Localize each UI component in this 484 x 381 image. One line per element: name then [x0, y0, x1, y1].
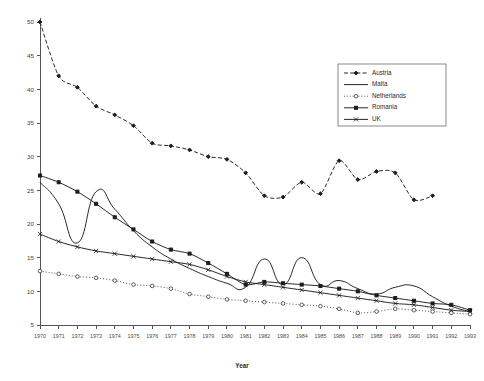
x-tick-label: 1979	[202, 333, 214, 339]
x-tick-label: 1976	[146, 333, 158, 339]
data-point-marker	[375, 170, 379, 174]
y-tick-label: 5	[31, 321, 35, 328]
x-tick-label: 1975	[127, 333, 139, 339]
x-tick-label: 1992	[445, 333, 457, 339]
x-tick-label: 1985	[314, 333, 326, 339]
x-tick-label: 1970	[34, 333, 46, 339]
data-point-marker	[38, 269, 42, 273]
data-point-marker	[356, 311, 360, 315]
x-tick-label: 1993	[464, 333, 476, 339]
data-point-marker	[281, 195, 285, 199]
data-point-marker	[338, 287, 341, 290]
data-point-marker	[300, 303, 304, 307]
legend: AustriaMaltaNetherlandsRomaniaUK	[338, 64, 446, 126]
data-point-marker	[39, 174, 42, 177]
data-point-marker	[113, 113, 117, 117]
y-tick-label: 30	[27, 153, 34, 160]
data-point-marker	[412, 299, 415, 302]
data-point-marker	[319, 192, 323, 196]
data-point-marker	[356, 178, 360, 182]
x-tick-label: 1989	[389, 333, 401, 339]
data-point-marker	[76, 190, 79, 193]
data-point-marker	[394, 297, 397, 300]
x-tick-label: 1981	[240, 333, 252, 339]
x-tick-label: 1972	[71, 333, 83, 339]
data-point-marker	[76, 275, 80, 279]
x-axis: 1970197119721973197419751976197719781979…	[34, 325, 476, 339]
data-point-marker	[281, 302, 285, 306]
data-point-marker	[132, 228, 135, 231]
data-point-marker	[263, 300, 267, 304]
data-point-marker	[393, 307, 397, 311]
data-point-marker	[150, 141, 154, 145]
data-point-marker	[57, 181, 60, 184]
y-tick-label: 15	[27, 254, 34, 261]
x-tick-label: 1988	[371, 333, 383, 339]
data-point-marker	[450, 303, 453, 306]
data-point-marker	[225, 298, 229, 302]
y-tick-label: 35	[27, 119, 34, 126]
y-tick-label: 25	[27, 187, 34, 194]
data-point-marker	[206, 155, 210, 159]
chart-canvas: 5101520253035404550 19701971197219731974…	[0, 0, 484, 381]
x-tick-label: 1986	[333, 333, 345, 339]
data-point-marker	[113, 279, 117, 283]
x-tick-label: 1973	[90, 333, 102, 339]
data-point-marker	[375, 294, 378, 297]
data-point-marker	[355, 106, 358, 109]
data-point-marker	[263, 280, 266, 283]
data-point-marker	[300, 283, 303, 286]
data-point-marker	[319, 304, 323, 308]
x-tick-label: 1974	[109, 333, 121, 339]
data-point-marker	[207, 262, 210, 265]
data-point-marker	[431, 302, 434, 305]
data-point-marker	[282, 282, 285, 285]
x-axis-title: Year	[235, 362, 249, 369]
data-point-marker	[150, 284, 154, 288]
data-point-marker	[95, 202, 98, 205]
y-tick-label: 45	[27, 52, 34, 59]
x-tick-label: 1987	[352, 333, 364, 339]
data-point-marker	[412, 308, 416, 312]
series-line	[40, 182, 470, 311]
x-tick-label: 1980	[221, 333, 233, 339]
x-tick-label: 1984	[296, 333, 308, 339]
data-point-marker	[244, 283, 247, 286]
data-point-marker	[431, 194, 435, 198]
series-romania	[39, 174, 472, 312]
data-point-marker	[94, 276, 98, 280]
y-tick-label: 40	[27, 86, 34, 93]
data-point-marker	[113, 216, 116, 219]
y-tick-label: 10	[27, 288, 34, 295]
data-point-marker	[132, 283, 136, 287]
line-chart: 5101520253035404550 19701971197219731974…	[0, 0, 484, 381]
data-point-marker	[225, 272, 228, 275]
data-point-marker	[206, 295, 210, 299]
series-line	[40, 176, 470, 311]
y-axis: 5101520253035404550	[27, 18, 40, 328]
legend-label: Austria	[372, 69, 392, 76]
data-point-marker	[356, 290, 359, 293]
data-point-marker	[412, 198, 416, 202]
x-tick-label: 1971	[53, 333, 65, 339]
data-point-marker	[169, 287, 173, 291]
legend-label: Romania	[372, 103, 398, 110]
x-tick-label: 1978	[184, 333, 196, 339]
data-point-marker	[319, 284, 322, 287]
series-line	[40, 271, 470, 314]
x-tick-label: 1977	[165, 333, 177, 339]
legend-label: Netherlands	[372, 92, 406, 99]
x-tick-label: 1991	[427, 333, 439, 339]
data-point-marker	[375, 310, 379, 314]
data-point-marker	[337, 307, 341, 311]
data-point-marker	[57, 272, 61, 276]
data-point-marker	[225, 157, 229, 161]
data-point-marker	[244, 299, 248, 303]
data-point-marker	[431, 310, 435, 314]
data-point-marker	[188, 292, 192, 296]
data-point-marker	[169, 144, 173, 148]
data-point-marker	[169, 248, 172, 251]
legend-label: Malta	[372, 80, 388, 87]
data-point-marker	[354, 94, 358, 98]
data-point-marker	[38, 20, 42, 24]
